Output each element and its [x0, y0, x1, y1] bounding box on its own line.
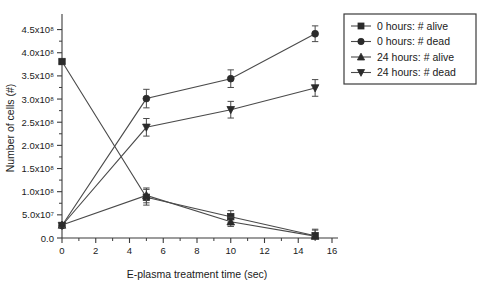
marker-square [358, 23, 364, 29]
y-axis-tick-label: 2.5x10⁸ [21, 117, 54, 128]
y-axis-title: Number of cells (#) [4, 84, 16, 173]
x-axis-tick-label: 2 [93, 245, 98, 256]
x-axis-tick-label: 6 [161, 245, 166, 256]
x-axis-title: E-plasma treatment time (sec) [127, 268, 268, 280]
legend-item-label: 24 hours: # dead [377, 66, 456, 78]
x-axis-tick-label: 10 [225, 245, 236, 256]
y-axis-tick-label: 5.0x10⁷ [22, 209, 55, 220]
x-axis-tick-label: 16 [327, 245, 338, 256]
y-axis-tick-label: 0.0 [41, 233, 54, 244]
marker-square [59, 58, 65, 64]
x-axis-tick-label: 4 [127, 245, 132, 256]
y-axis-tick-label: 2.0x10⁸ [21, 140, 54, 151]
x-axis-tick-label: 0 [59, 245, 64, 256]
legend-item-label: 0 hours: # dead [377, 35, 450, 47]
y-axis-tick-label: 4.5x10⁸ [21, 24, 54, 35]
y-axis-tick-label: 3.5x10⁸ [21, 70, 54, 81]
y-axis-tick-label: 1.0x10⁸ [21, 186, 54, 197]
x-axis-tick-label: 14 [293, 245, 304, 256]
legend-item-label: 24 hours: # alive [377, 51, 454, 63]
legend-item-label: 0 hours: # alive [377, 20, 448, 32]
marker-circle [358, 38, 364, 44]
y-axis-tick-label: 1.5x10⁸ [21, 163, 54, 174]
y-axis-tick-label: 3.0x10⁸ [21, 94, 54, 105]
chart-figure: 0.05.0x10⁷1.0x10⁸1.5x10⁸2.0x10⁸2.5x10⁸3.… [0, 0, 484, 284]
x-axis-tick-label: 8 [194, 245, 199, 256]
marker-circle [312, 30, 319, 37]
x-axis-tick-label: 12 [259, 245, 270, 256]
chart-legend[interactable]: 0 hours: # alive0 hours: # dead24 hours:… [344, 14, 476, 84]
marker-circle [143, 95, 150, 102]
marker-circle [227, 75, 234, 82]
y-axis-tick-label: 4.0x10⁸ [21, 47, 54, 58]
